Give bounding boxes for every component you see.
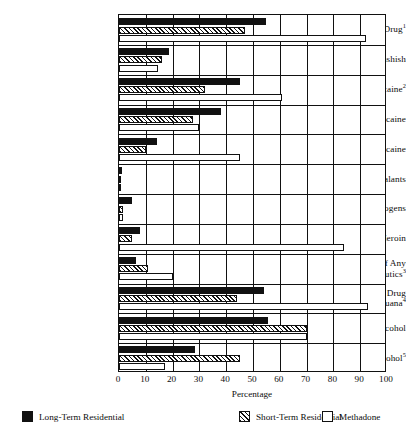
bar-longterm <box>119 317 268 324</box>
legend-swatch-methadone <box>322 411 333 422</box>
bar-methadone <box>119 35 366 42</box>
group-separator <box>119 313 385 314</box>
x-tick-label: 10 <box>140 374 149 384</box>
bar-shortterm <box>119 265 148 272</box>
bar-shortterm <box>119 325 307 332</box>
group-separator <box>119 134 385 135</box>
group-separator <box>119 343 385 344</box>
bar-shortterm <box>119 27 245 34</box>
legend-item: Long-Term Residential <box>22 411 124 422</box>
group-separator <box>119 45 385 46</box>
x-tick-label: 30 <box>194 374 203 384</box>
x-tick-label: 40 <box>221 374 230 384</box>
gridline <box>280 15 281 371</box>
x-tick-label: 70 <box>301 374 310 384</box>
bar-methadone <box>119 273 173 280</box>
bar-methadone <box>119 363 165 370</box>
gridline <box>333 15 334 371</box>
bar-shortterm <box>119 206 123 213</box>
group-separator <box>119 224 385 225</box>
bar-methadone <box>119 94 282 101</box>
plot-area <box>118 14 386 372</box>
x-tick-label: 60 <box>274 374 283 384</box>
bar-longterm <box>119 346 195 353</box>
legend-item: Methadone <box>322 411 380 422</box>
bar-methadone <box>119 184 121 191</box>
x-axis-ticks: 0102030405060708090100 <box>118 374 386 388</box>
x-tick-label: 50 <box>247 374 256 384</box>
bar-shortterm <box>119 176 121 183</box>
group-separator <box>119 75 385 76</box>
legend-label: Long-Term Residential <box>39 412 124 422</box>
bar-methadone <box>119 244 344 251</box>
bar-shortterm <box>119 355 240 362</box>
group-separator <box>119 254 385 255</box>
x-axis-title: Percentage <box>118 389 386 399</box>
bar-longterm <box>119 227 140 234</box>
bar-shortterm <box>119 116 193 123</box>
bar-shortterm <box>119 86 205 93</box>
bar-methadone <box>119 124 199 131</box>
bar-methadone <box>119 214 123 221</box>
bar-shortterm <box>119 295 237 302</box>
x-tick-label: 90 <box>355 374 364 384</box>
bar-methadone <box>119 303 368 310</box>
bar-shortterm <box>119 146 146 153</box>
legend-swatch-longterm <box>22 411 33 422</box>
bar-methadone <box>119 65 158 72</box>
bar-longterm <box>119 257 136 264</box>
x-tick-label: 80 <box>328 374 337 384</box>
bar-longterm <box>119 197 132 204</box>
bar-methadone <box>119 154 240 161</box>
bar-shortterm <box>119 56 162 63</box>
bar-longterm <box>119 287 264 294</box>
group-separator <box>119 105 385 106</box>
legend-label: Methadone <box>339 412 380 422</box>
bar-longterm <box>119 167 122 174</box>
x-tick-label: 100 <box>379 374 393 384</box>
chart-legend: Long-Term ResidentialShort-Term Resident… <box>0 411 406 433</box>
bar-shortterm <box>119 235 132 242</box>
gridline <box>307 15 308 371</box>
horizontal-bar-chart: Any Illicit Drug1Marijuana/HashishAny Co… <box>0 0 406 441</box>
bar-longterm <box>119 138 157 145</box>
bar-methadone <box>119 333 307 340</box>
group-separator <box>119 194 385 195</box>
bar-longterm <box>119 78 240 85</box>
group-separator <box>119 164 385 165</box>
bar-longterm <box>119 18 266 25</box>
x-tick-label: 0 <box>116 374 121 384</box>
x-tick-label: 20 <box>167 374 176 384</box>
legend-swatch-shortterm <box>239 411 250 422</box>
bar-longterm <box>119 48 169 55</box>
bar-longterm <box>119 108 221 115</box>
gridline <box>360 15 361 371</box>
group-separator <box>119 284 385 285</box>
